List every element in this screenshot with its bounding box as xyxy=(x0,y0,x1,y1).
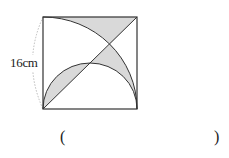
shaded-region-middle xyxy=(90,44,137,109)
geometry-figure xyxy=(0,0,229,158)
dimension-label: 16cm xyxy=(9,55,39,71)
answer-open-paren: ( xyxy=(60,128,65,146)
answer-close-paren: ) xyxy=(214,128,219,146)
